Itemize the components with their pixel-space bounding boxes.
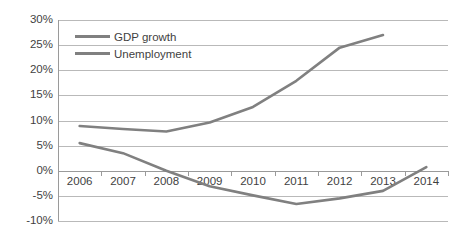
legend-item-gdp-growth: GDP growth: [75, 27, 255, 44]
legend-label: Unemployment: [114, 48, 191, 60]
line-chart: 30%25%20%15%10%5%0%-5%-10% 2006200720082…: [0, 0, 464, 238]
legend-swatch-icon: [75, 35, 110, 38]
series-line: [80, 143, 427, 204]
legend-item-unemployment: Unemployment: [75, 44, 255, 61]
legend-swatch-icon: [75, 52, 110, 55]
chart-legend: GDP growth Unemployment: [75, 27, 255, 61]
legend-label: GDP growth: [114, 31, 176, 43]
